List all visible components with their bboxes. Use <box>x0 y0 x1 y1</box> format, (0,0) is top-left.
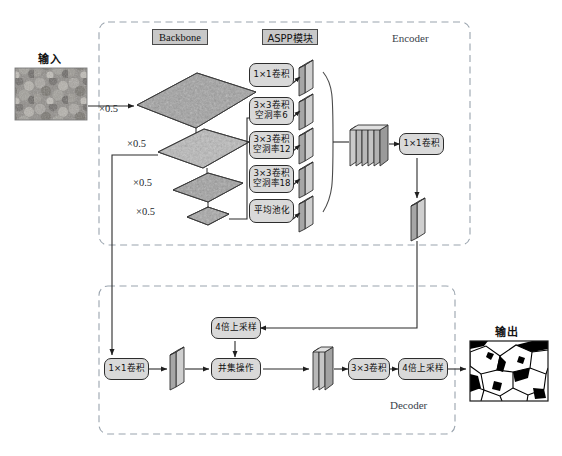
scale-label-3: ×0.5 <box>133 177 152 188</box>
aspp-branch-slab-4 <box>299 162 313 198</box>
aspp-branch-1-line1: 1×1卷积 <box>253 70 289 80</box>
aspp-branch-2-line2: 空洞率6 <box>255 111 287 121</box>
decoder-lowlevel-slab <box>170 347 184 390</box>
decoder-conv3x3-box[interactable]: 3×3卷积 <box>348 358 390 380</box>
encoder-conv1x1-label: 1×1卷积 <box>403 139 439 149</box>
decoder-fused-stack <box>313 347 333 390</box>
scale-label-1: ×0.5 <box>99 103 118 114</box>
decoder-group-label: Decoder <box>390 399 427 411</box>
decoder-conv3x3-label: 3×3卷积 <box>351 364 387 374</box>
aspp-branch-slab-2 <box>299 94 313 130</box>
input-image <box>15 68 87 120</box>
decoder-upsample4x-top-box[interactable]: 4倍上采样 <box>211 317 261 339</box>
aspp-header-chip[interactable]: ASPP模块 <box>262 29 318 45</box>
aspp-branch-4-line2: 空洞率18 <box>253 179 291 189</box>
aspp-branch-box-4[interactable]: 3×3卷积 空洞率18 <box>249 165 294 193</box>
decoder-upsample4x-final-box[interactable]: 4倍上采样 <box>398 358 448 380</box>
aspp-branch-slab-3 <box>299 128 313 164</box>
decoder-conv1x1-label: 1×1卷积 <box>108 364 144 374</box>
decoder-concat-op-box[interactable]: 并集操作 <box>211 358 261 380</box>
aspp-merge-brace <box>323 72 333 212</box>
aspp-branch-slab-1 <box>299 60 313 96</box>
aspp-branch-box-1[interactable]: 1×1卷积 <box>249 63 294 87</box>
decoder-concat-op-label: 并集操作 <box>218 364 254 374</box>
aspp-branch-slab-5 <box>299 196 313 232</box>
scale-label-2: ×0.5 <box>127 138 146 149</box>
input-caption: 输入 <box>38 50 61 66</box>
backbone-feature-map-2 <box>152 126 254 172</box>
aspp-branch-box-3[interactable]: 3×3卷积 空洞率12 <box>249 131 294 159</box>
aspp-branch-5-line1: 平均池化 <box>254 206 290 216</box>
aspp-branch-box-5[interactable]: 平均池化 <box>249 199 294 223</box>
backbone-header-chip[interactable]: Backbone <box>152 29 208 45</box>
aspp-branch-3-line2: 空洞率12 <box>253 145 291 155</box>
aspp-branch-box-2[interactable]: 3×3卷积 空洞率6 <box>249 97 294 125</box>
encoder-conv1x1-box[interactable]: 1×1卷积 <box>399 133 444 155</box>
decoder-upsample4x-final-label: 4倍上采样 <box>402 364 443 374</box>
encoder-concat-stack <box>350 125 388 166</box>
encoder-output-slab <box>411 198 425 241</box>
output-image <box>468 341 548 401</box>
backbone-feature-map-1 <box>130 70 262 132</box>
arrow-encoder-to-upsample <box>260 241 417 328</box>
backbone-feature-map-4 <box>184 204 234 228</box>
scale-label-4: ×0.5 <box>136 206 155 217</box>
output-caption: 输出 <box>495 323 518 339</box>
decoder-upsample4x-top-label: 4倍上采样 <box>215 323 256 333</box>
architecture-diagram: 输入 输出 Encoder Decoder Backbone ASPP模块 ×0… <box>0 0 562 456</box>
decoder-conv1x1-box[interactable]: 1×1卷积 <box>104 358 149 380</box>
backbone-feature-map-3 <box>168 170 248 206</box>
encoder-group-label: Encoder <box>392 32 429 44</box>
